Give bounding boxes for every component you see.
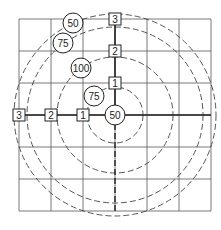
square-marker-label: 2: [48, 110, 54, 121]
circle-marker-label: 50: [67, 18, 79, 29]
circle-marker-label: 100: [73, 63, 90, 74]
square-marker-label: 1: [80, 110, 86, 121]
isocandela-diagram: 123123 50751007550: [0, 0, 221, 230]
square-marker-label: 3: [112, 14, 118, 25]
circle-marker-label: 75: [57, 38, 69, 49]
circle-marker-label: 75: [88, 91, 100, 102]
circle-marker-label: 50: [109, 110, 121, 121]
square-marker-label: 2: [112, 46, 118, 57]
square-marker-label: 1: [112, 78, 118, 89]
square-marker-label: 3: [16, 110, 22, 121]
